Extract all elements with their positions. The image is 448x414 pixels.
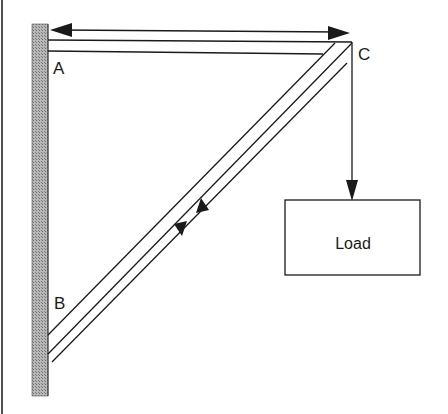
wall: [32, 24, 48, 396]
tension-arrow: [50, 23, 350, 40]
label-a: A: [53, 59, 65, 78]
horizontal-beam: [48, 40, 352, 54]
label-c: C: [358, 45, 370, 64]
arrowhead-down-icon: [346, 180, 358, 201]
truss-diagram: Load A B C: [0, 0, 448, 414]
load-label: Load: [335, 235, 371, 252]
load-arrow: [346, 42, 358, 201]
arrowhead-right-icon: [328, 26, 350, 40]
arrowhead-left-icon: [50, 23, 72, 37]
compression-arrows: [174, 198, 209, 236]
label-b: B: [54, 294, 65, 313]
